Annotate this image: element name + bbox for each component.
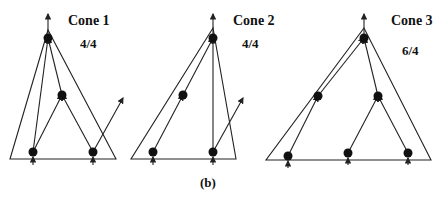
- cone-3: [266, 14, 431, 168]
- node-dot: [89, 148, 98, 157]
- edge-arrow: [153, 95, 183, 152]
- cone-diagram: Cone 1 4/4 Cone 2 4/4 Cone 3 6/4 (b): [0, 0, 443, 199]
- node-dot: [314, 92, 323, 101]
- cone-1-title: Cone 1: [68, 13, 110, 28]
- cone-1-ratio: 4/4: [80, 36, 97, 51]
- node-dot: [374, 92, 383, 101]
- cone-2-title: Cone 2: [233, 13, 275, 28]
- edge-arrow: [288, 96, 318, 156]
- edge-arrow: [378, 96, 408, 153]
- edge-arrow: [62, 95, 93, 152]
- node-dot: [29, 148, 38, 157]
- cone-2: [131, 14, 243, 165]
- node-dot: [44, 34, 53, 43]
- node-dot: [284, 152, 293, 161]
- edge-arrow: [364, 38, 378, 96]
- panel-label: (b): [200, 175, 216, 190]
- output-arrow: [213, 98, 243, 152]
- cone-2-ratio: 4/4: [242, 36, 259, 51]
- edge-arrow: [348, 96, 378, 153]
- node-dot: [209, 148, 218, 157]
- cone-3-title: Cone 3: [391, 13, 433, 28]
- edge-arrow: [48, 38, 62, 95]
- edge-arrow: [183, 38, 213, 95]
- node-dot: [58, 91, 67, 100]
- edge-arrow: [33, 95, 62, 152]
- cone-3-ratio: 6/4: [402, 43, 419, 58]
- node-dot: [344, 149, 353, 158]
- cone-1: [10, 14, 123, 165]
- node-dot: [149, 148, 158, 157]
- node-dot: [209, 34, 218, 43]
- edge-arrow: [318, 38, 364, 96]
- node-dot: [179, 91, 188, 100]
- node-dot: [404, 149, 413, 158]
- node-dot: [360, 34, 369, 43]
